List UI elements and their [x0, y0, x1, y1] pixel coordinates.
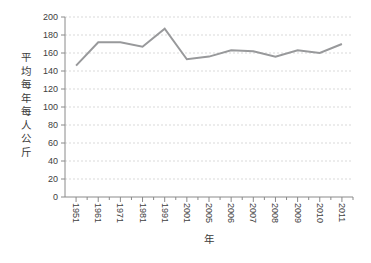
x-tick-label: 1971	[115, 203, 125, 223]
x-tick-label: 2007	[248, 203, 258, 223]
x-tick-label: 2006	[226, 203, 236, 223]
x-axis-title: 年	[65, 231, 353, 246]
chart-container: 0204060801001201401601802001951196119711…	[0, 0, 371, 263]
y-tick-label: 60	[48, 138, 58, 148]
x-tick-label: 2001	[182, 203, 192, 223]
y-tick-label: 200	[43, 12, 58, 22]
plot-area: 0204060801001201401601802001951196119711…	[0, 0, 371, 263]
y-tick-label: 160	[43, 48, 58, 58]
y-tick-label: 100	[43, 102, 58, 112]
x-tick-label: 1991	[160, 203, 170, 223]
x-tick-label: 1951	[71, 203, 81, 223]
y-tick-label: 20	[48, 174, 58, 184]
data-line	[76, 29, 342, 66]
x-tick-label: 2005	[204, 203, 214, 223]
x-tick-label: 2011	[337, 203, 347, 222]
y-tick-label: 0	[53, 192, 58, 202]
y-axis-title: 平均每年每人公斤	[18, 52, 33, 160]
x-tick-label: 2010	[315, 203, 325, 223]
y-tick-label: 180	[43, 30, 58, 40]
y-tick-label: 40	[48, 156, 58, 166]
y-tick-label: 80	[48, 120, 58, 130]
x-tick-label: 1981	[138, 203, 148, 223]
x-tick-label: 2008	[270, 203, 280, 223]
y-tick-label: 120	[43, 84, 58, 94]
y-tick-label: 140	[43, 66, 58, 76]
x-tick-label: 1961	[93, 203, 103, 223]
x-tick-label: 2009	[293, 203, 303, 223]
